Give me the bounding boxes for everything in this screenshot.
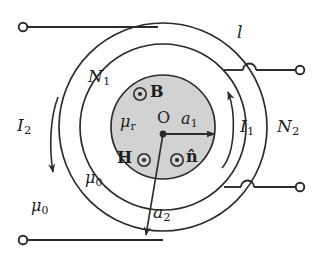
label-current-i1-subscript: 1 — [247, 124, 255, 138]
label-radius-a2-symbol: a — [153, 202, 163, 222]
h-field-dot-center-icon — [142, 158, 146, 162]
wire-hop-bottom-right-icon — [241, 181, 254, 188]
label-unit-normal-n: n̂ — [186, 149, 198, 165]
label-turns-n1: N1 — [88, 68, 110, 88]
label-current-i2-symbol: I — [17, 115, 24, 135]
label-mu-zero-annulus: μ0 — [85, 170, 103, 189]
label-flux-density-b: B — [150, 84, 164, 100]
label-turns-n2: N2 — [277, 118, 299, 138]
terminal-top-right-icon[interactable] — [296, 66, 305, 75]
label-path-length-l: l — [237, 24, 242, 41]
label-radius-a2-subscript: 2 — [163, 210, 171, 224]
label-field-intensity-h: H — [117, 150, 132, 166]
label-center-o: O — [157, 110, 170, 126]
label-mu-zero-outside: μ0 — [31, 198, 49, 217]
label-current-i2-subscript: 2 — [24, 123, 32, 137]
label-mu-relative: μr — [120, 114, 136, 133]
magnetic-core-figure: l N1 N2 I1 I2 μr μ0 μ0 O a1 a2 B H n̂ — [0, 0, 324, 255]
label-mu-zero-annulus-symbol: μ — [85, 168, 95, 187]
current-i2-direction-arc — [51, 97, 58, 172]
label-radius-a1: a1 — [181, 111, 198, 130]
label-radius-a1-symbol: a — [181, 109, 191, 128]
label-mu-zero-outside-symbol: μ — [31, 196, 41, 215]
label-turns-n1-subscript: 1 — [103, 74, 111, 88]
label-turns-n2-subscript: 2 — [292, 124, 300, 138]
b-field-dot-center-icon — [138, 92, 142, 96]
label-current-i1-symbol: I — [240, 116, 247, 136]
label-radius-a2: a2 — [153, 204, 171, 224]
terminal-bottom-right-icon[interactable] — [296, 183, 305, 192]
label-turns-n1-symbol: N — [88, 66, 103, 86]
current-i1-direction-arc — [222, 92, 233, 168]
n-hat-dot-center-icon — [175, 158, 179, 162]
terminal-bottom-left-icon[interactable] — [19, 236, 28, 245]
label-current-i2: I2 — [17, 117, 31, 137]
label-turns-n2-symbol: N — [277, 116, 292, 136]
label-current-i1: I1 — [240, 118, 254, 138]
label-mu-relative-symbol: μ — [120, 112, 130, 131]
label-radius-a1-subscript: 1 — [191, 117, 198, 130]
label-mu-zero-annulus-subscript: 0 — [95, 176, 102, 189]
label-mu-relative-subscript: r — [130, 120, 135, 133]
terminal-top-left-icon[interactable] — [19, 23, 28, 32]
label-mu-zero-outside-subscript: 0 — [41, 204, 48, 217]
